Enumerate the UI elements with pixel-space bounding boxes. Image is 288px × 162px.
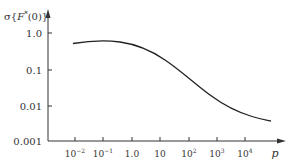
x-tick-label: 1.0 <box>125 149 140 159</box>
x-tick-label: 10−2 <box>65 147 85 159</box>
y-tick-label: 0.01 <box>20 101 42 112</box>
x-tick-label: 102 <box>181 147 196 159</box>
x-tick-label: 10 <box>154 149 166 159</box>
y-ticks <box>48 33 52 106</box>
x-tick-label: 103 <box>209 147 224 159</box>
y-tick-label: 0.001 <box>13 136 42 147</box>
x-axis-arrow-icon <box>277 139 286 144</box>
x-tick-label: 10−1 <box>93 147 113 159</box>
y-tick-label: 0.1 <box>26 65 42 76</box>
y-tick-label: 1.0 <box>26 28 42 39</box>
data-curve <box>73 41 271 121</box>
x-tick-label: 104 <box>237 147 252 159</box>
y-axis-label: σ{F*(0)} <box>4 10 48 22</box>
x-axis-label: p <box>271 147 278 160</box>
chart: 1.0 0.1 0.01 0.001 σ{F*(0)} 10−2 10−1 1.… <box>0 0 288 162</box>
x-ticks <box>75 137 245 141</box>
